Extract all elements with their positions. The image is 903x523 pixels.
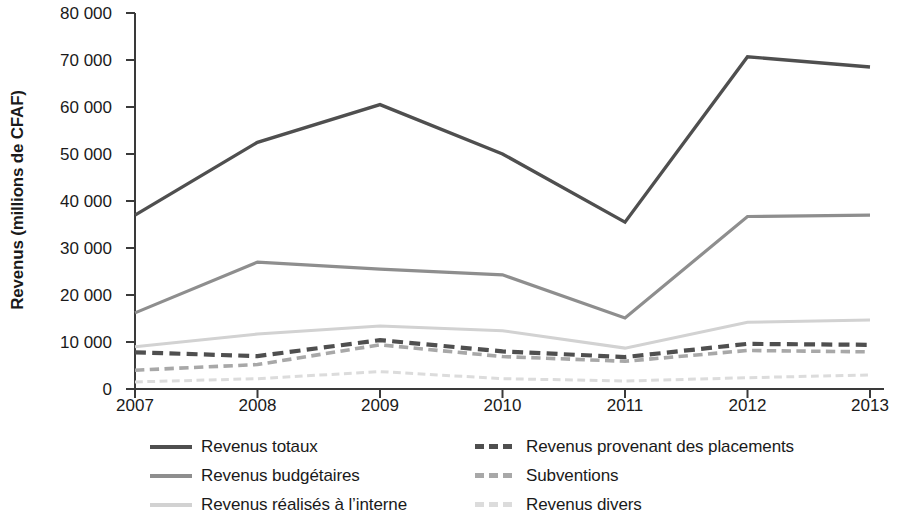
legend-label: Revenus réalisés à l’interne xyxy=(201,495,407,515)
legend-label: Revenus provenant des placements xyxy=(526,437,794,457)
legend-label: Subventions xyxy=(526,466,618,486)
legend-item[interactable]: Revenus réalisés à l’interne xyxy=(150,495,475,515)
chart-legend: Revenus totauxRevenus provenant des plac… xyxy=(150,432,895,519)
series-line xyxy=(135,372,870,382)
legend-swatch-icon xyxy=(150,474,192,478)
series-line xyxy=(135,57,870,222)
legend-swatch-icon xyxy=(475,473,517,478)
series-line xyxy=(135,340,870,357)
legend-label: Revenus divers xyxy=(526,495,642,515)
legend-swatch-icon xyxy=(475,502,517,507)
legend-item[interactable]: Revenus totaux xyxy=(150,437,475,457)
legend-item[interactable]: Revenus provenant des placements xyxy=(475,437,895,457)
series-line xyxy=(135,215,870,318)
legend-swatch-icon xyxy=(150,503,192,507)
legend-swatch-icon xyxy=(475,444,517,449)
chart-container: Revenus (millions de CFAF) 010 00020 000… xyxy=(0,0,903,523)
legend-item[interactable]: Revenus divers xyxy=(475,495,895,515)
legend-item[interactable]: Subventions xyxy=(475,466,895,486)
legend-item[interactable]: Revenus budgétaires xyxy=(150,466,475,486)
legend-label: Revenus budgétaires xyxy=(201,466,360,486)
legend-swatch-icon xyxy=(150,445,192,449)
legend-label: Revenus totaux xyxy=(201,437,318,457)
